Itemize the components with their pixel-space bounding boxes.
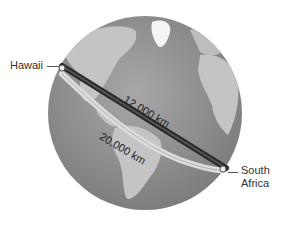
hawaii-point <box>59 65 65 71</box>
south-africa-label-line1: South <box>241 164 270 176</box>
south-africa-leader-line <box>228 172 238 173</box>
south-africa-point <box>220 166 226 172</box>
hawaii-label: Hawaii <box>10 59 43 71</box>
hawaii-leader-line <box>47 66 59 67</box>
south-africa-label-line2: Africa <box>241 177 269 189</box>
